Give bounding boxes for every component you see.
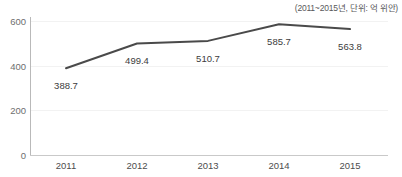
x-tick-2015: 2015 (339, 160, 360, 171)
value-label-2013: 510.7 (196, 53, 220, 64)
x-tick-2013: 2013 (197, 160, 218, 171)
x-tick-2014: 2014 (268, 160, 289, 171)
value-label-2014: 585.7 (267, 36, 291, 47)
chart-container: (2011~2015년, 단위: 억 위안) 600 400 200 0 388… (0, 0, 402, 177)
x-tick-2012: 2012 (126, 160, 147, 171)
x-tick-2011: 2011 (56, 160, 76, 171)
value-label-2012: 499.4 (125, 55, 149, 66)
value-label-2011: 388.7 (54, 80, 78, 91)
value-label-2015: 563.8 (338, 41, 362, 52)
